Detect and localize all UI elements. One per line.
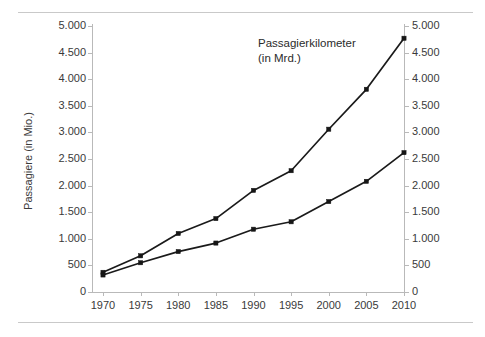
data-point-1-1995 [289, 220, 293, 224]
data-point-0-1995 [289, 169, 293, 173]
data-point-1-2010 [402, 151, 406, 155]
data-point-0-2010 [402, 36, 406, 40]
data-point-0-2005 [364, 87, 368, 91]
data-point-0-1985 [214, 216, 218, 220]
data-point-1-2000 [327, 199, 331, 203]
data-point-1-1975 [139, 261, 143, 265]
series-line-0 [103, 38, 404, 272]
chart-container: 05001.0001.5002.0002.5003.0003.5004.0004… [0, 0, 485, 337]
data-point-1-1990 [251, 227, 255, 231]
data-point-1-1980 [176, 249, 180, 253]
data-point-1-1985 [214, 241, 218, 245]
data-point-1-2005 [364, 179, 368, 183]
data-point-0-1990 [251, 188, 255, 192]
data-point-0-2000 [327, 127, 331, 131]
data-point-0-1980 [176, 231, 180, 235]
plot-area [0, 0, 485, 337]
series-line-1 [103, 153, 404, 275]
data-point-0-1975 [139, 254, 143, 258]
data-point-1-1970 [101, 273, 105, 277]
